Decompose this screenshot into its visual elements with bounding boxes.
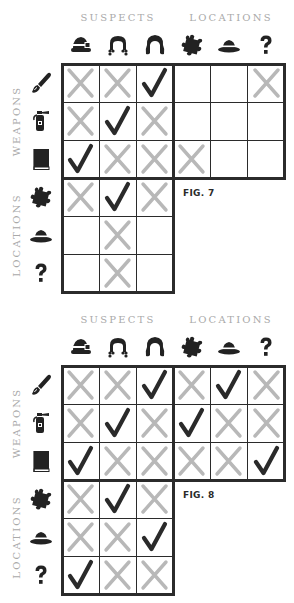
- grid-border: [172, 365, 175, 596]
- cross-mark-icon: [136, 140, 173, 178]
- check-mark-icon: [136, 366, 173, 404]
- bowler-hat-woman-icon: [68, 32, 94, 58]
- grid-cell[interactable]: [248, 442, 285, 480]
- cross-mark-icon: [136, 404, 173, 442]
- grid-cell[interactable]: [173, 64, 210, 102]
- grid-line: [62, 216, 173, 217]
- logic-puzzle-fig-8: SUSPECTSLOCATIONSWEAPONSLOCATIONSFIG. 8: [0, 302, 294, 602]
- grid-cell[interactable]: [210, 404, 247, 442]
- cross-mark-icon: [136, 102, 173, 140]
- grid-cell[interactable]: [99, 64, 136, 102]
- bowler-hat-woman-icon: [68, 334, 94, 360]
- grid-cell[interactable]: [173, 442, 210, 480]
- grid-cell[interactable]: [136, 404, 173, 442]
- grid-line: [210, 366, 211, 480]
- grid-cell[interactable]: [99, 404, 136, 442]
- grid-cell[interactable]: [99, 140, 136, 178]
- question-mark-icon: [28, 562, 54, 588]
- grid-cell[interactable]: [173, 102, 210, 140]
- cross-mark-icon: [210, 442, 247, 480]
- grid-cell[interactable]: [62, 480, 99, 518]
- locations-side-label: LOCATIONS: [11, 193, 22, 276]
- grid-cell[interactable]: [136, 102, 173, 140]
- grid-border: [283, 63, 286, 180]
- grid-cell[interactable]: [210, 102, 247, 140]
- grid-cell[interactable]: [99, 480, 136, 518]
- grid-cell[interactable]: [136, 366, 173, 404]
- grid-cell[interactable]: [136, 216, 173, 254]
- book-icon: [28, 448, 54, 474]
- cross-mark-icon: [136, 442, 173, 480]
- check-mark-icon: [62, 140, 99, 178]
- grid-cell[interactable]: [99, 556, 136, 594]
- curly-hair-icon: [105, 32, 131, 58]
- grid-cell[interactable]: [136, 480, 173, 518]
- cross-mark-icon: [99, 518, 136, 556]
- grid-cell[interactable]: [62, 102, 99, 140]
- grid-cell[interactable]: [99, 366, 136, 404]
- check-mark-icon: [136, 64, 173, 102]
- grid-cell[interactable]: [210, 442, 247, 480]
- grid-cell[interactable]: [210, 366, 247, 404]
- puzzle-piece-icon: [179, 334, 205, 360]
- question-mark-icon: [28, 260, 54, 286]
- cross-mark-icon: [173, 442, 210, 480]
- puzzle-piece-icon: [28, 486, 54, 512]
- grid-cell[interactable]: [248, 140, 285, 178]
- grid-cell[interactable]: [136, 556, 173, 594]
- cross-mark-icon: [99, 140, 136, 178]
- grid-cell[interactable]: [62, 518, 99, 556]
- paint-brush-icon: [28, 70, 54, 96]
- suspects-header: SUSPECTS: [81, 314, 156, 325]
- grid-cell[interactable]: [136, 64, 173, 102]
- grid-cell[interactable]: [62, 178, 99, 216]
- grid-border: [61, 593, 175, 596]
- long-hair-icon: [142, 32, 168, 58]
- grid-cell[interactable]: [62, 366, 99, 404]
- cross-mark-icon: [99, 64, 136, 102]
- grid-cell[interactable]: [248, 64, 285, 102]
- locations-header: LOCATIONS: [189, 314, 272, 325]
- grid-cell[interactable]: [173, 404, 210, 442]
- cross-mark-icon: [99, 216, 136, 254]
- grid-cell[interactable]: [173, 140, 210, 178]
- grid-cell[interactable]: [99, 518, 136, 556]
- figure-label: FIG. 8: [183, 490, 215, 500]
- grid-cell[interactable]: [99, 102, 136, 140]
- grid-cell[interactable]: [248, 102, 285, 140]
- grid-line: [247, 366, 248, 480]
- cross-mark-icon: [62, 178, 99, 216]
- grid-cell[interactable]: [99, 254, 136, 292]
- cross-mark-icon: [248, 404, 285, 442]
- check-mark-icon: [99, 480, 136, 518]
- grid-cell[interactable]: [99, 216, 136, 254]
- grid-cell[interactable]: [173, 366, 210, 404]
- grid-cell[interactable]: [248, 404, 285, 442]
- question-mark-icon: [253, 334, 279, 360]
- suspects-header: SUSPECTS: [81, 12, 156, 23]
- puzzle-piece-icon: [179, 32, 205, 58]
- grid-cell[interactable]: [62, 442, 99, 480]
- grid-cell[interactable]: [62, 254, 99, 292]
- fedora-hat-icon: [216, 32, 242, 58]
- grid-cell[interactable]: [248, 366, 285, 404]
- cross-mark-icon: [99, 254, 136, 292]
- grid-cell[interactable]: [62, 216, 99, 254]
- grid-cell[interactable]: [136, 442, 173, 480]
- grid-cell[interactable]: [62, 404, 99, 442]
- grid-cell[interactable]: [62, 140, 99, 178]
- fire-extinguisher-icon: [28, 108, 54, 134]
- grid-cell[interactable]: [136, 178, 173, 216]
- grid-cell[interactable]: [210, 140, 247, 178]
- grid-cell[interactable]: [136, 140, 173, 178]
- cross-mark-icon: [173, 366, 210, 404]
- grid-cell[interactable]: [62, 64, 99, 102]
- cross-mark-icon: [99, 366, 136, 404]
- grid-cell[interactable]: [136, 518, 173, 556]
- grid-cell[interactable]: [62, 556, 99, 594]
- grid-cell[interactable]: [210, 64, 247, 102]
- grid-cell[interactable]: [136, 254, 173, 292]
- grid-cell[interactable]: [99, 442, 136, 480]
- curly-hair-icon: [105, 334, 131, 360]
- grid-cell[interactable]: [99, 178, 136, 216]
